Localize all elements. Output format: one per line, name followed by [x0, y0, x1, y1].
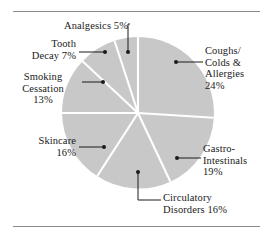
pie-label-circulatory-disorders: Circulatory Disorders 16%	[163, 192, 269, 215]
leader-dot-smoking-cessation	[101, 80, 105, 84]
leader-dot-analgesics	[126, 50, 130, 54]
pie-label-gastro-intestinals: Gastro- Intestinals 19%	[203, 143, 269, 178]
leader-dot-gastro	[175, 156, 179, 160]
leader-dot-circulatory	[136, 170, 140, 174]
pie-label-skincare: Skincare 16%	[8, 135, 76, 158]
pie-label-smoking-cessation: Smoking Cessation 13%	[6, 71, 80, 106]
pie-label-tooth-decay: Tooth Decay 7%	[14, 38, 76, 61]
pie-slice-coughs-colds-allergies[interactable]	[138, 37, 214, 118]
bottom-divider-rule	[13, 226, 260, 227]
leader-dot-tooth-decay	[103, 50, 107, 54]
pie-label-coughs-colds-allergies: Coughs/ Colds & Allergies 24%	[205, 45, 269, 91]
leader-dot-coughs	[174, 60, 178, 64]
leader-dot-skincare	[102, 145, 106, 149]
pie-label-analgesics: Analgesics 5%	[32, 20, 128, 32]
figure-panel: Analgesics 5% Tooth Decay 7% Smoking Ces…	[0, 0, 272, 235]
